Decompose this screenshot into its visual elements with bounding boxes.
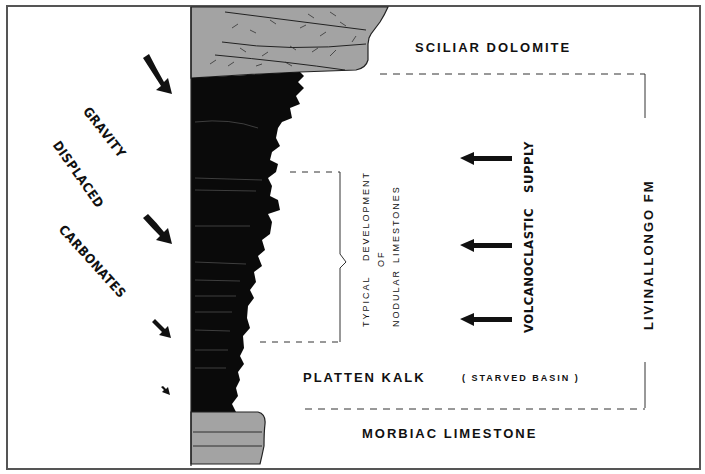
stratigraphic-diagram: SCILIAR DOLOMITE GRAVITY DISPLACED CARBO… xyxy=(0,0,705,474)
volcanoclastic-arrows xyxy=(460,152,512,326)
label-sciliar-dolomite: SCILIAR DOLOMITE xyxy=(415,40,571,55)
livinallongo-black-column xyxy=(191,72,304,412)
livinallongo-bracket xyxy=(305,74,645,409)
diagram-graphics xyxy=(0,0,705,474)
label-morbiac-limestone: MORBIAC LIMESTONE xyxy=(362,426,537,441)
label-development: DEVELOPMENT xyxy=(361,171,371,261)
label-volcanoclastic: VOLCANOCLASTIC xyxy=(521,208,536,333)
label-platten-kalk: PLATTEN KALK xyxy=(303,370,426,385)
label-typical: TYPICAL xyxy=(361,275,371,327)
morbiac-limestone-block xyxy=(191,412,265,464)
label-livinallongo-fm: LIVINALLONGO FM xyxy=(641,179,656,330)
label-starved-basin: ( STARVED BASIN ) xyxy=(462,373,580,383)
gravity-arrows xyxy=(143,54,172,395)
label-nodular: NODULAR xyxy=(391,269,401,327)
label-limestones: LIMESTONES xyxy=(391,185,401,263)
sciliar-dolomite-block xyxy=(191,7,388,78)
label-supply: SUPPLY xyxy=(521,141,536,193)
label-of: OF xyxy=(376,251,386,268)
